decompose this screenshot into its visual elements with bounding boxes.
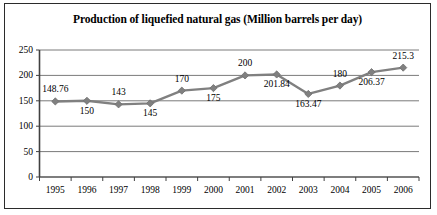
y-axis-tick-label: 0 xyxy=(7,172,33,182)
data-point-label: 143 xyxy=(111,87,125,97)
data-point-label: 170 xyxy=(175,74,189,84)
data-point-marker xyxy=(52,98,59,105)
data-point-label: 150 xyxy=(80,106,94,116)
data-point-label: 163.47 xyxy=(295,99,321,109)
data-point-label: 200 xyxy=(238,58,252,68)
data-point-marker xyxy=(210,85,217,92)
data-point-marker xyxy=(115,101,122,108)
y-axis-tick-label: 250 xyxy=(7,45,33,55)
y-axis-tick-label: 100 xyxy=(7,121,33,131)
data-point-marker xyxy=(400,64,407,71)
data-point-marker xyxy=(178,87,185,94)
y-axis-tick-label: 150 xyxy=(7,96,33,106)
data-point-label: 180 xyxy=(333,69,347,79)
data-point-label: 201.84 xyxy=(264,79,290,89)
chart-canvas xyxy=(5,4,432,210)
y-axis-tick-label: 200 xyxy=(7,70,33,80)
chart-frame: Production of liquefied natural gas (Mil… xyxy=(4,3,431,209)
data-point-label: 206.37 xyxy=(359,77,385,87)
data-point-label: 175 xyxy=(206,93,220,103)
data-point-marker xyxy=(83,97,90,104)
data-point-label: 148.76 xyxy=(42,84,68,94)
plot-area: 0501001502002501995199619971998199920002… xyxy=(5,4,432,210)
series-line xyxy=(55,68,403,105)
data-point-marker xyxy=(368,69,375,76)
x-axis-tick-label: 2006 xyxy=(383,185,423,195)
data-point-label: 145 xyxy=(143,108,157,118)
data-point-marker xyxy=(336,82,343,89)
data-point-marker xyxy=(241,72,248,79)
data-point-label: 215.3 xyxy=(393,51,414,61)
y-axis-tick-label: 50 xyxy=(7,147,33,157)
